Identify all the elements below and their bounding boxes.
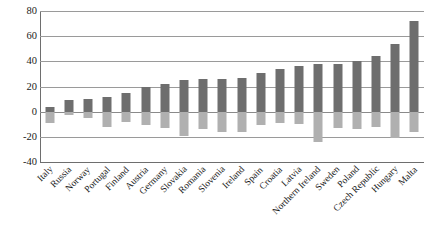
bar-negative xyxy=(352,112,361,130)
y-tick-label-0: 0 xyxy=(3,106,37,117)
bar-group xyxy=(251,11,270,162)
bar-negative xyxy=(83,112,92,118)
bar-group xyxy=(40,11,59,162)
x-label-malta: Malta xyxy=(397,165,419,187)
bar-group xyxy=(194,11,213,162)
bar-negative xyxy=(122,112,131,122)
bar-positive xyxy=(83,99,92,112)
bar-positive xyxy=(64,100,73,111)
bar-negative xyxy=(295,112,304,125)
bar-negative xyxy=(314,112,323,142)
bar-group xyxy=(98,11,117,162)
bar-negative xyxy=(256,112,265,126)
bar-group xyxy=(405,11,424,162)
bar-negative xyxy=(371,112,380,127)
y-tick-label-40: 40 xyxy=(3,56,37,67)
bar-positive xyxy=(256,73,265,112)
bar-positive xyxy=(410,21,419,112)
bar-positive xyxy=(333,64,342,112)
bar-positive xyxy=(141,87,150,112)
bar-positive xyxy=(237,78,246,112)
bar-group xyxy=(328,11,347,162)
bar-negative xyxy=(237,112,246,132)
bar-positive xyxy=(371,56,380,111)
y-axis-labels: 806040200-20-40 xyxy=(0,0,37,231)
x-axis-category-labels: ItalyRussiaNorwayPortugalFinlandAustriaG… xyxy=(40,163,424,231)
bar-negative xyxy=(141,112,150,126)
bar-negative xyxy=(391,112,400,138)
bar-group xyxy=(290,11,309,162)
bar-group xyxy=(232,11,251,162)
y-tick-label-20: 20 xyxy=(3,81,37,92)
bar-group xyxy=(174,11,193,162)
bar-negative xyxy=(199,112,208,130)
bar-positive xyxy=(314,64,323,112)
bar-group xyxy=(155,11,174,162)
bar-negative xyxy=(410,112,419,132)
bar-group xyxy=(366,11,385,162)
y-tick-label--20: -20 xyxy=(3,132,37,143)
bar-negative xyxy=(179,112,188,136)
plot-area xyxy=(40,11,424,162)
y-tick-label--40: -40 xyxy=(3,157,37,168)
bar-negative xyxy=(275,112,284,123)
bar-chart: 806040200-20-40 ItalyRussiaNorwayPortuga… xyxy=(0,0,431,231)
bar-positive xyxy=(160,84,169,112)
y-tick-label-80: 80 xyxy=(3,6,37,17)
bar-negative xyxy=(333,112,342,128)
bar-positive xyxy=(295,66,304,111)
bar-positive xyxy=(122,93,131,112)
bar-positive xyxy=(199,79,208,112)
bar-negative xyxy=(64,112,73,116)
bar-group xyxy=(386,11,405,162)
bars-layer xyxy=(40,11,424,162)
bar-positive xyxy=(103,97,112,112)
bar-group xyxy=(270,11,289,162)
bar-negative xyxy=(45,112,54,123)
bar-negative xyxy=(160,112,169,128)
bar-group xyxy=(347,11,366,162)
bar-negative xyxy=(103,112,112,127)
bar-group xyxy=(59,11,78,162)
bar-positive xyxy=(218,79,227,112)
bar-group xyxy=(213,11,232,162)
bar-positive xyxy=(275,69,284,112)
bar-positive xyxy=(179,80,188,111)
bar-group xyxy=(78,11,97,162)
bar-group xyxy=(117,11,136,162)
bar-group xyxy=(136,11,155,162)
bar-group xyxy=(309,11,328,162)
y-tick-label-60: 60 xyxy=(3,31,37,42)
bar-positive xyxy=(391,44,400,112)
bar-positive xyxy=(352,61,361,111)
bar-negative xyxy=(218,112,227,132)
